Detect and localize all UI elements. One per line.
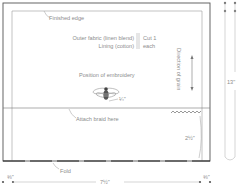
label-outer-fabric: Outer fabric (linen blend) bbox=[42, 35, 134, 41]
label-seam-left: ⅜" bbox=[7, 174, 14, 180]
label-cut-1: Cut 1 bbox=[143, 35, 156, 41]
label-finished-edge: Finished edge bbox=[49, 15, 84, 21]
label-lining: Lining (cotton) bbox=[42, 43, 134, 49]
pattern-lines bbox=[0, 0, 242, 190]
leader-fold bbox=[53, 163, 59, 169]
label-direction-of-grain: Direction of grain bbox=[176, 48, 182, 90]
label-height-13: 13" bbox=[227, 79, 235, 85]
label-seam-right: ⅜" bbox=[203, 174, 210, 180]
label-position-embroidery: Position of embroidery bbox=[79, 72, 135, 78]
leader-attach-braid bbox=[69, 109, 76, 118]
label-braid-height: 2½" bbox=[185, 135, 195, 141]
sewing-pattern-diagram: Finished edge Outer fabric (linen blend)… bbox=[0, 0, 242, 190]
label-attach-braid: Attach braid here bbox=[76, 116, 119, 122]
label-width: 7½" bbox=[100, 179, 110, 185]
label-embroidery-offset: ¼" bbox=[119, 96, 126, 102]
label-fold: Fold bbox=[60, 168, 71, 174]
inner-seam-line bbox=[12, 11, 202, 161]
label-each: each bbox=[143, 43, 155, 49]
bee-embroidery-icon bbox=[93, 87, 120, 100]
zigzag-braid-icon bbox=[171, 111, 201, 113]
grain-arrow-icon bbox=[191, 55, 194, 91]
